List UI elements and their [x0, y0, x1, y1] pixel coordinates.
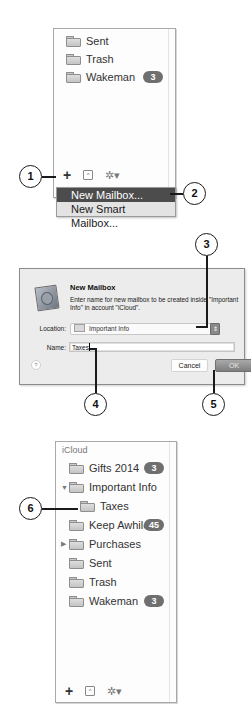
name-input-value: Taxes	[72, 344, 89, 351]
unread-count-badge: 3	[144, 595, 164, 607]
ok-button[interactable]: OK	[215, 359, 251, 372]
callout-2-leader	[170, 193, 183, 195]
dialog-title: New Mailbox	[70, 283, 115, 292]
mail-app-icon	[34, 285, 59, 312]
mailbox-item-trash[interactable]: Trash	[56, 573, 176, 591]
mailbox-item-keep-awhile[interactable]: Keep Awhile 45	[56, 516, 176, 534]
mailbox-label: Trash	[86, 53, 114, 65]
mailbox-item-trash[interactable]: Trash	[54, 50, 175, 68]
sidebar-toolbar: + ^ ✲▾	[54, 166, 175, 184]
show-hide-icon[interactable]: ^	[83, 170, 93, 180]
location-value: Important Info	[89, 325, 129, 332]
unread-count-badge: 45	[144, 519, 164, 531]
callout-5: 5	[202, 393, 225, 416]
callout-3: 3	[195, 233, 218, 256]
mailbox-label: Taxes	[100, 500, 129, 512]
folder-icon	[69, 482, 84, 493]
folder-icon	[80, 501, 95, 512]
folder-icon	[66, 72, 81, 83]
menu-item-new-smart-mailbox[interactable]: New Smart Mailbox...	[57, 202, 175, 216]
location-popup[interactable]: Important Info ⇕	[70, 323, 220, 335]
folder-icon	[66, 54, 81, 65]
folder-icon	[69, 520, 84, 531]
add-mailbox-menu: New Mailbox... New Smart Mailbox...	[56, 187, 176, 217]
name-label: Name:	[28, 344, 66, 351]
help-button[interactable]: ?	[31, 360, 41, 370]
text-cursor	[89, 343, 90, 351]
callout-6: 6	[19, 497, 42, 520]
add-mailbox-button[interactable]: +	[63, 168, 71, 182]
show-hide-icon[interactable]: ^	[85, 686, 95, 696]
mailbox-sidebar-before: Sent Trash Wakeman 3 + ^ ✲▾	[53, 28, 176, 198]
unread-count-badge: 3	[144, 462, 164, 474]
account-header[interactable]: iCloud	[62, 445, 88, 455]
mailbox-label: Important Info	[89, 481, 157, 493]
folder-icon	[69, 558, 84, 569]
mailbox-item-sent[interactable]: Sent	[56, 554, 176, 572]
folder-icon	[74, 324, 85, 332]
mailbox-item-gifts-2014[interactable]: Gifts 2014 3	[56, 459, 176, 477]
mailbox-label: Gifts 2014	[89, 462, 139, 474]
callout-3-leader-h	[196, 326, 208, 328]
mailbox-item-sent[interactable]: Sent	[54, 32, 175, 50]
menu-item-new-mailbox[interactable]: New Mailbox...	[57, 188, 175, 202]
folder-icon	[69, 596, 84, 607]
mailbox-item-wakeman[interactable]: Wakeman 3	[54, 68, 175, 86]
callout-3-leader-v	[206, 256, 208, 327]
mailbox-label: Sent	[89, 557, 112, 569]
add-mailbox-button[interactable]: +	[65, 684, 73, 698]
mailbox-item-important-info[interactable]: ▼ Important Info	[56, 478, 176, 496]
mailbox-item-taxes[interactable]: Taxes	[56, 497, 176, 515]
mailbox-label: Trash	[89, 576, 117, 588]
mailbox-label: Sent	[86, 35, 109, 47]
callout-6-leader	[42, 508, 78, 510]
mailbox-sidebar-after: iCloud Gifts 2014 3 ▼ Important Info Tax…	[55, 441, 177, 703]
popup-stepper-icon[interactable]: ⇕	[210, 323, 220, 335]
mailbox-label: Wakeman	[89, 595, 138, 607]
mailbox-name-input[interactable]: Taxes	[69, 342, 235, 352]
callout-4: 4	[84, 393, 107, 416]
callout-1-leader	[42, 176, 56, 178]
folder-icon	[69, 577, 84, 588]
callout-4-leader-v	[95, 348, 97, 393]
mailbox-item-wakeman[interactable]: Wakeman 3	[56, 592, 176, 610]
mailbox-label: Keep Awhile	[89, 519, 149, 531]
callout-2: 2	[183, 182, 206, 205]
mailbox-label: Wakeman	[86, 71, 135, 83]
location-label: Location:	[28, 325, 66, 332]
new-mailbox-dialog: New Mailbox Enter name for new mailbox t…	[19, 268, 245, 385]
callout-1: 1	[19, 165, 42, 188]
cancel-button[interactable]: Cancel	[171, 359, 208, 372]
callout-4-leader-h	[90, 348, 96, 350]
folder-icon	[66, 36, 81, 47]
callout-5-leader	[213, 370, 215, 393]
action-gear-icon[interactable]: ✲▾	[107, 685, 122, 698]
dialog-message: Enter name for new mailbox to be created…	[70, 296, 242, 312]
disclosure-collapsed-icon[interactable]: ▶	[61, 540, 69, 548]
unread-count-badge: 3	[143, 71, 163, 83]
mailbox-label: Purchases	[89, 538, 141, 550]
sidebar-toolbar: + ^ ✲▾	[56, 682, 176, 700]
mailbox-item-purchases[interactable]: ▶ Purchases	[56, 535, 176, 553]
folder-icon	[69, 463, 84, 474]
action-gear-icon[interactable]: ✲▾	[105, 169, 120, 182]
folder-icon	[69, 539, 84, 550]
disclosure-expanded-icon[interactable]: ▼	[61, 484, 69, 491]
